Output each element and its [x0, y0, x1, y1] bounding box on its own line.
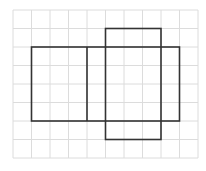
- grid-diagram: [0, 0, 206, 171]
